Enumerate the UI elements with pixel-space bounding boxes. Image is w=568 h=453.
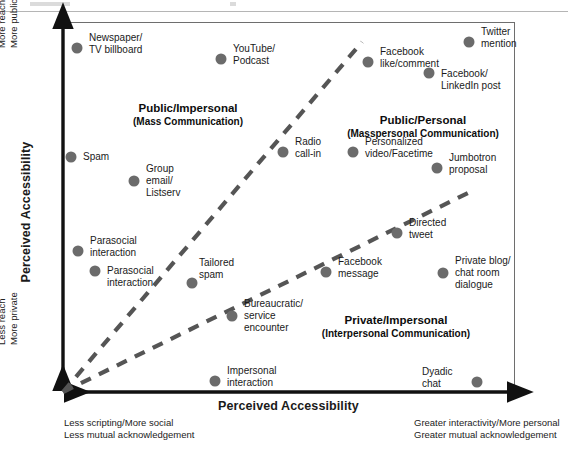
data-point-label: Personalized video/Facetime: [365, 136, 433, 160]
data-point-label: Parasocial interaction: [107, 265, 154, 289]
region-subtitle: (Mass Communication): [133, 115, 243, 128]
data-point[interactable]: [90, 266, 101, 277]
data-point[interactable]: [424, 68, 435, 79]
data-point-label: Private blog/ chat room dialogue: [455, 255, 511, 290]
scatter-diagram: Perceived Accessibility Perceived Access…: [0, 0, 568, 453]
data-point[interactable]: [278, 147, 289, 158]
x-axis-title: Perceived Accessibility: [218, 399, 359, 413]
region-label-public-impersonal: Public/Impersonal(Mass Communication): [133, 101, 243, 128]
data-point[interactable]: [227, 311, 238, 322]
region-title: Public/Impersonal: [133, 101, 243, 115]
data-point[interactable]: [464, 37, 475, 48]
region-subtitle: (Interpersonal Communication): [322, 327, 470, 340]
data-point[interactable]: [129, 176, 140, 187]
y-top-line1: More reach: [0, 0, 7, 48]
x-left-line1: Less scripting/More social: [64, 417, 173, 428]
data-point[interactable]: [392, 228, 403, 239]
data-point[interactable]: [210, 376, 221, 387]
x-left-line2: Less mutual acknowledgement: [64, 429, 194, 440]
data-point-label: Group email/ Listserv: [146, 163, 180, 198]
data-point-label: Tailored spam: [199, 257, 234, 281]
data-point-label: Twitter mention: [481, 26, 517, 50]
x-right-line2: Greater mutual acknowledgement: [414, 429, 557, 440]
y-axis-top-caption: More reach More public: [0, 0, 19, 48]
data-point-label: YouTube/ Podcast: [233, 43, 275, 67]
region-title: Private/Impersonal: [322, 313, 470, 327]
data-point-label: Spam: [83, 151, 109, 163]
region-label-private-impersonal: Private/Impersonal(Interpersonal Communi…: [322, 313, 470, 340]
data-point-label: Radio call-in: [295, 136, 321, 160]
data-point-label: Facebook message: [338, 256, 382, 280]
x-axis-right-caption: Greater interactivity/More personal Grea…: [414, 417, 560, 441]
data-point-label: Parasocial interaction: [90, 235, 137, 259]
y-axis-title: Perceived Accessibility: [19, 127, 33, 297]
data-point-label: Dyadic chat: [422, 366, 453, 390]
data-point-label: Directed tweet: [409, 217, 446, 241]
data-point-label: Bureaucratic/ service encounter: [244, 298, 303, 333]
data-point[interactable]: [321, 267, 332, 278]
y-axis-bottom-caption: Less reach More private: [0, 292, 19, 345]
data-point-label: Newspaper/ TV billboard: [89, 32, 142, 56]
data-point[interactable]: [438, 268, 449, 279]
y-bottom-line2: More private: [8, 292, 19, 345]
y-bottom-line1: Less reach: [0, 299, 7, 345]
data-point[interactable]: [72, 43, 83, 54]
y-top-line2: More public: [8, 0, 19, 48]
data-point-label: Jumbotron proposal: [449, 152, 496, 176]
data-point[interactable]: [348, 147, 359, 158]
data-point[interactable]: [363, 57, 374, 68]
data-point[interactable]: [73, 246, 84, 257]
data-point-label: Facebook/ LinkedIn post: [441, 68, 501, 92]
x-right-line1: Greater interactivity/More personal: [414, 417, 560, 428]
data-point[interactable]: [472, 377, 483, 388]
data-point-label: Facebook like/comment: [380, 46, 439, 70]
data-point[interactable]: [432, 163, 443, 174]
data-point[interactable]: [66, 152, 77, 163]
region-title: Public/Personal: [347, 113, 499, 127]
steep-divider-line: [63, 42, 362, 392]
data-point-label: Impersonal interaction: [227, 365, 276, 389]
x-axis-left-caption: Less scripting/More social Less mutual a…: [64, 417, 194, 441]
data-point[interactable]: [216, 54, 227, 65]
data-point[interactable]: [187, 278, 198, 289]
